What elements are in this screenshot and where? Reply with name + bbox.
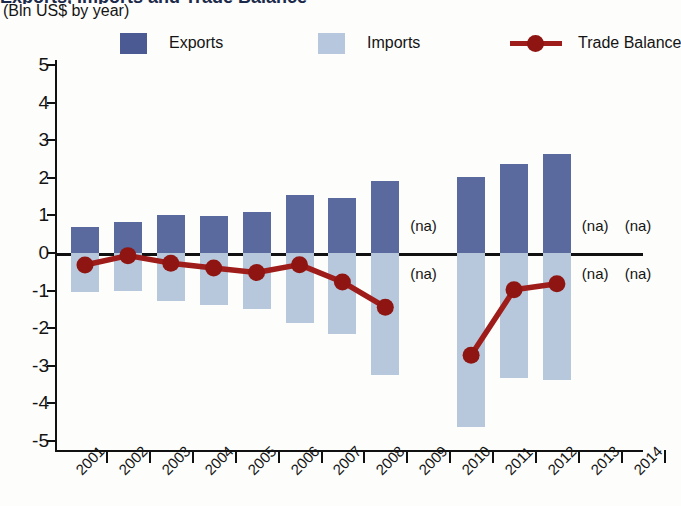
trade-balance-point — [291, 256, 308, 273]
y-axis-tick-label: -3 — [15, 355, 49, 377]
y-axis-tick-label: 1 — [15, 204, 49, 226]
legend-swatch-imports-icon — [318, 33, 345, 54]
y-axis-tick — [47, 365, 55, 367]
y-axis-tick-label: 4 — [15, 92, 49, 114]
y-axis-tick — [47, 252, 55, 254]
y-axis-tick-label: -2 — [15, 317, 49, 339]
x-axis-tick — [492, 450, 494, 463]
y-axis-labels: 543210-1-2-3-4-5 — [15, 60, 49, 450]
x-axis-tick — [363, 450, 365, 463]
x-axis-tick — [149, 450, 151, 463]
y-axis-tick — [47, 440, 55, 442]
y-axis-tick — [47, 177, 55, 179]
legend-swatch-exports-icon — [120, 33, 147, 54]
legend-item-trade-balance[interactable]: Trade Balance — [510, 30, 681, 56]
legend-item-exports[interactable]: Exports — [120, 30, 223, 56]
x-axis-tick — [449, 450, 451, 463]
y-axis-tick-label: 5 — [15, 54, 49, 76]
trade-balance-point — [205, 260, 222, 277]
trade-balance-point — [77, 257, 94, 274]
y-axis-tick-label: -1 — [15, 280, 49, 302]
plot-area: 543210-1-2-3-4-5 20012002200320042005200… — [55, 60, 643, 450]
trade-balance-point — [463, 347, 480, 364]
y-axis-tick-label: 3 — [15, 129, 49, 151]
legend-label-imports: Imports — [367, 34, 420, 52]
trade-balance-point — [248, 264, 265, 281]
trade-balance-point — [377, 299, 394, 316]
y-axis-tick — [47, 290, 55, 292]
x-axis-tick — [535, 450, 537, 463]
y-axis-tick — [47, 102, 55, 104]
legend-item-imports[interactable]: Imports — [318, 30, 420, 56]
legend-label-exports: Exports — [169, 34, 223, 52]
y-axis-tick-label: 0 — [15, 242, 49, 264]
y-axis-tick — [47, 402, 55, 404]
y-axis-tick — [47, 214, 55, 216]
x-axis-tick — [106, 450, 108, 463]
y-axis-tick-label: -4 — [15, 392, 49, 414]
trade-balance-point — [162, 255, 179, 272]
chart-subtitle: (Bln US$ by year) — [3, 2, 129, 20]
legend-line-marker-icon — [510, 33, 562, 54]
legend-label-trade-balance: Trade Balance — [578, 34, 681, 52]
y-axis-tick — [47, 64, 55, 66]
trade-balance-point — [334, 273, 351, 290]
y-axis-tick-label: -5 — [15, 430, 49, 452]
chart-legend: Exports Imports Trade Balance — [120, 30, 660, 56]
y-axis-tick-label: 2 — [15, 167, 49, 189]
trade-balance-point — [119, 247, 136, 264]
x-axis-tick — [406, 450, 408, 463]
x-axis-tick — [578, 450, 580, 463]
trade-balance-line — [55, 60, 643, 450]
trade-balance-point — [548, 275, 565, 292]
y-axis-tick — [47, 139, 55, 141]
trade-balance-point — [506, 281, 523, 298]
y-axis-tick — [47, 327, 55, 329]
